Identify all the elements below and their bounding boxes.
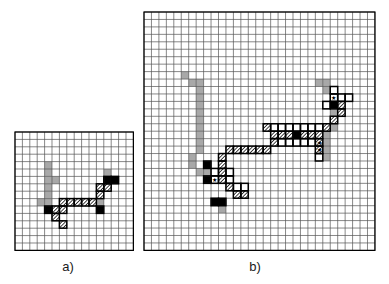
panel-a (14, 131, 134, 251)
svg-text:★: ★ (212, 176, 217, 183)
svg-text:★: ★ (317, 139, 322, 146)
svg-text:★: ★ (331, 94, 336, 101)
panel-a-caption: a) (48, 259, 88, 274)
svg-text:★: ★ (317, 146, 322, 153)
panel-b-caption: b) (235, 259, 275, 274)
figure-container: a) ★★★★ b) (0, 0, 389, 284)
panel-a-grid (14, 131, 134, 251)
panel-b-grid: ★★★★ (143, 11, 376, 251)
panel-b: ★★★★ (143, 11, 376, 251)
